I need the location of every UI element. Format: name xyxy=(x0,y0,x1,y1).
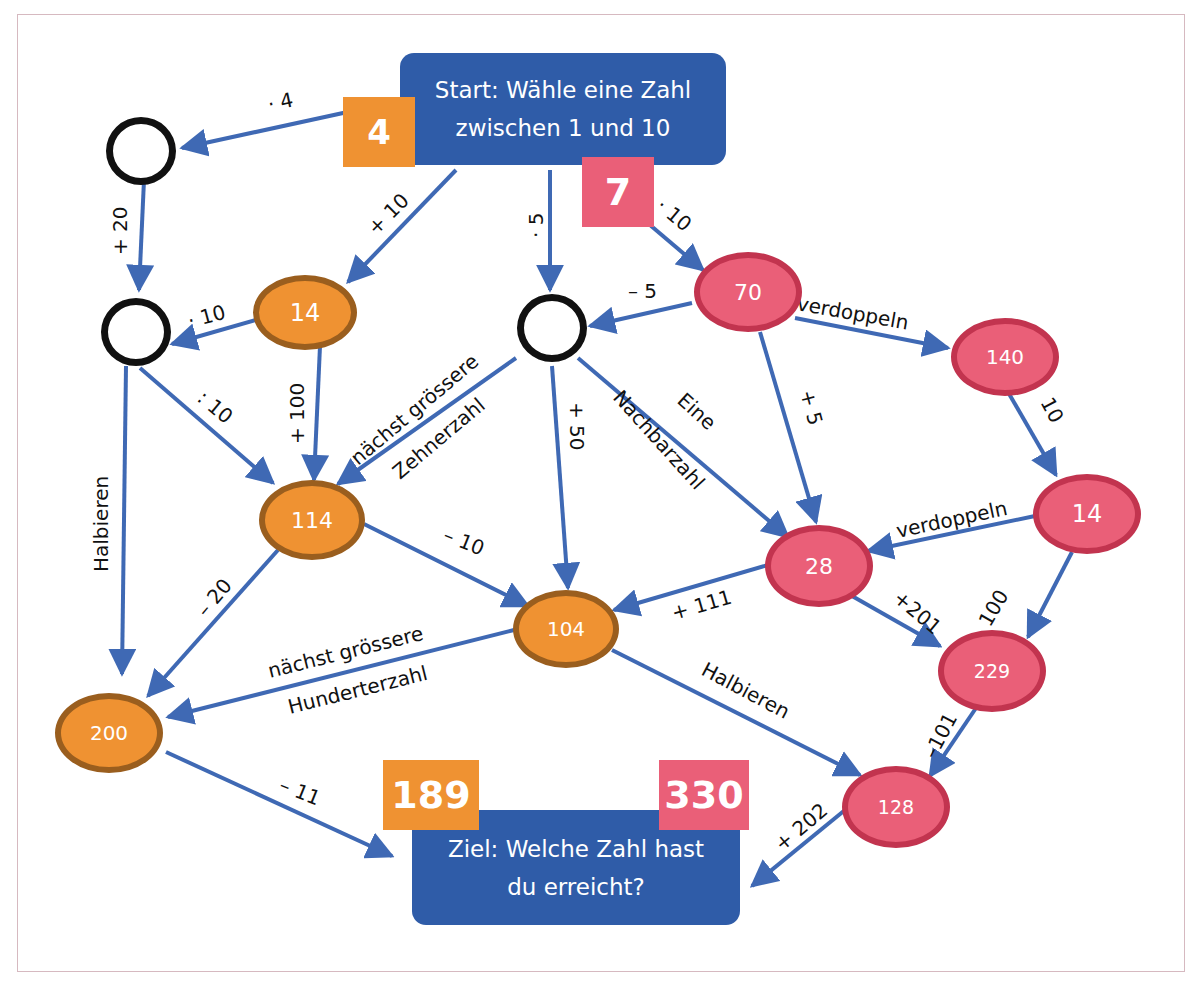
edge-70-to-c xyxy=(590,303,692,326)
start-badge-orange: 4 xyxy=(343,97,415,167)
goal-badge-orange: 189 xyxy=(383,760,479,830)
label-start-to-14: + 10 xyxy=(363,188,414,239)
label-104-to-128: Halbieren xyxy=(698,657,794,723)
label-start-to-c: · 5 xyxy=(524,213,548,238)
label-a-to-b: + 20 xyxy=(108,206,132,255)
label-b-to-114: : 10 xyxy=(193,385,238,428)
node-14-pink: 14 xyxy=(1033,474,1141,554)
empty-node-a xyxy=(106,117,176,185)
label-14-to-114: + 100 xyxy=(285,383,309,444)
edge-14-to-114 xyxy=(314,346,320,480)
goal-text-line2: du erreicht? xyxy=(412,868,740,906)
label-114-to-200: – 20 xyxy=(191,574,236,621)
start-box: Start: Wähle eine Zahl zwischen 1 und 10 xyxy=(400,53,726,165)
node-70: 70 xyxy=(694,252,802,332)
label-70-to-28: + 5 xyxy=(795,387,827,428)
label-b-to-200: Halbieren xyxy=(89,476,113,572)
label-14-to-229: 100 xyxy=(974,585,1014,630)
node-229: 229 xyxy=(938,630,1046,712)
node-104: 104 xyxy=(513,590,619,668)
node-128: 128 xyxy=(842,766,950,848)
label-70-to-c: – 5 xyxy=(628,279,657,303)
edge-b-to-200 xyxy=(122,366,126,674)
label-c-to-28-line1: Eine xyxy=(673,388,721,435)
label-140-to-14: 10 xyxy=(1036,393,1069,427)
edge-104-to-128 xyxy=(612,650,860,775)
empty-node-b xyxy=(101,298,171,366)
start-text-line1: Start: Wähle eine Zahl xyxy=(400,71,726,109)
goal-badge-pink: 330 xyxy=(659,760,749,830)
node-140: 140 xyxy=(951,318,1059,396)
label-start-to-a: · 4 xyxy=(265,88,295,117)
label-14-to-28: verdoppeln xyxy=(894,496,1009,543)
node-114: 114 xyxy=(259,480,365,560)
label-c-to-104: + 50 xyxy=(565,402,589,451)
empty-node-c xyxy=(517,294,587,362)
edge-b-to-114 xyxy=(140,368,273,483)
edge-a-to-b xyxy=(139,180,144,290)
node-28: 28 xyxy=(765,525,873,607)
start-text-line2: zwischen 1 und 10 xyxy=(400,109,726,147)
edge-114-to-200 xyxy=(148,550,278,696)
edge-c-to-104 xyxy=(552,366,568,588)
node-200: 200 xyxy=(55,693,163,773)
start-badge-pink: 7 xyxy=(582,157,654,227)
label-114-to-104: – 10 xyxy=(440,522,488,560)
edge-200-to-goal xyxy=(166,752,392,856)
edge-14-to-229 xyxy=(1028,552,1072,637)
edge-start-to-14 xyxy=(348,170,456,282)
node-14-orange: 14 xyxy=(253,275,357,350)
goal-text-line1: Ziel: Welche Zahl hast xyxy=(412,830,740,868)
